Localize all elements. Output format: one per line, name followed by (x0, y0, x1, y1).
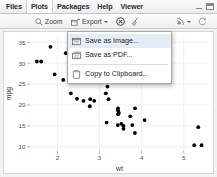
svg-text:2: 2 (56, 154, 60, 161)
svg-text:mpg: mpg (5, 87, 13, 100)
svg-text:30: 30 (19, 60, 26, 67)
zoom-label: Zoom (45, 15, 62, 28)
pdf-icon (72, 51, 81, 60)
svg-text:15: 15 (19, 122, 26, 129)
export-icon (71, 18, 80, 26)
clipboard-icon (72, 70, 81, 79)
clear-all-plots-button[interactable] (131, 15, 140, 28)
image-icon (72, 37, 81, 46)
menu-item-save-as-pdf[interactable]: Save as PDF... (68, 48, 171, 62)
svg-text:4: 4 (140, 154, 144, 161)
svg-text:5: 5 (182, 154, 186, 161)
svg-text:wt: wt (115, 165, 123, 172)
chevron-down-icon[interactable] (104, 21, 108, 23)
menu-item-label: Copy to Clipboard... (85, 67, 149, 81)
publish-icon (176, 17, 185, 26)
export-label: Export (82, 15, 102, 28)
magnifier-icon (35, 18, 43, 26)
svg-text:35: 35 (19, 39, 26, 46)
window-controls (195, 3, 214, 10)
pane-tab-bar: Files Plots Packages Help Viewer (0, 0, 217, 14)
menu-item-copy-to-clipboard[interactable]: Copy to Clipboard... (68, 67, 171, 81)
menu-separator (71, 64, 168, 65)
tab-plots[interactable]: Plots (26, 0, 53, 13)
clear-plot-icon (116, 17, 125, 26)
minimize-icon[interactable] (195, 3, 203, 10)
svg-text:10: 10 (19, 143, 26, 150)
tab-files[interactable]: Files (2, 0, 26, 13)
plots-toolbar: Zoom Export (0, 14, 217, 29)
chevron-down-icon[interactable] (187, 21, 191, 23)
menu-item-label: Save as Image... (85, 34, 139, 48)
maximize-icon[interactable] (206, 3, 214, 10)
tab-help[interactable]: Help (93, 0, 116, 13)
svg-text:25: 25 (19, 80, 26, 87)
menu-item-save-as-image[interactable]: Save as Image... (68, 34, 171, 48)
tab-packages[interactable]: Packages (53, 0, 93, 13)
rstudio-plots-pane: Files Plots Packages Help Viewer Zoom (0, 0, 217, 177)
refresh-icon (198, 17, 207, 26)
refresh-button[interactable] (198, 15, 207, 28)
export-button[interactable]: Export (71, 15, 108, 28)
clear-plot-button[interactable] (116, 15, 125, 28)
publish-button[interactable] (176, 15, 191, 28)
menu-item-label: Save as PDF... (85, 48, 133, 62)
zoom-button[interactable]: Zoom (35, 15, 62, 28)
broom-icon (131, 17, 140, 27)
svg-text:3: 3 (98, 154, 102, 161)
export-dropdown-menu: Save as Image... Save as PDF... Copy to … (67, 31, 172, 84)
tab-viewer[interactable]: Viewer (117, 0, 147, 13)
svg-text:20: 20 (19, 101, 26, 108)
